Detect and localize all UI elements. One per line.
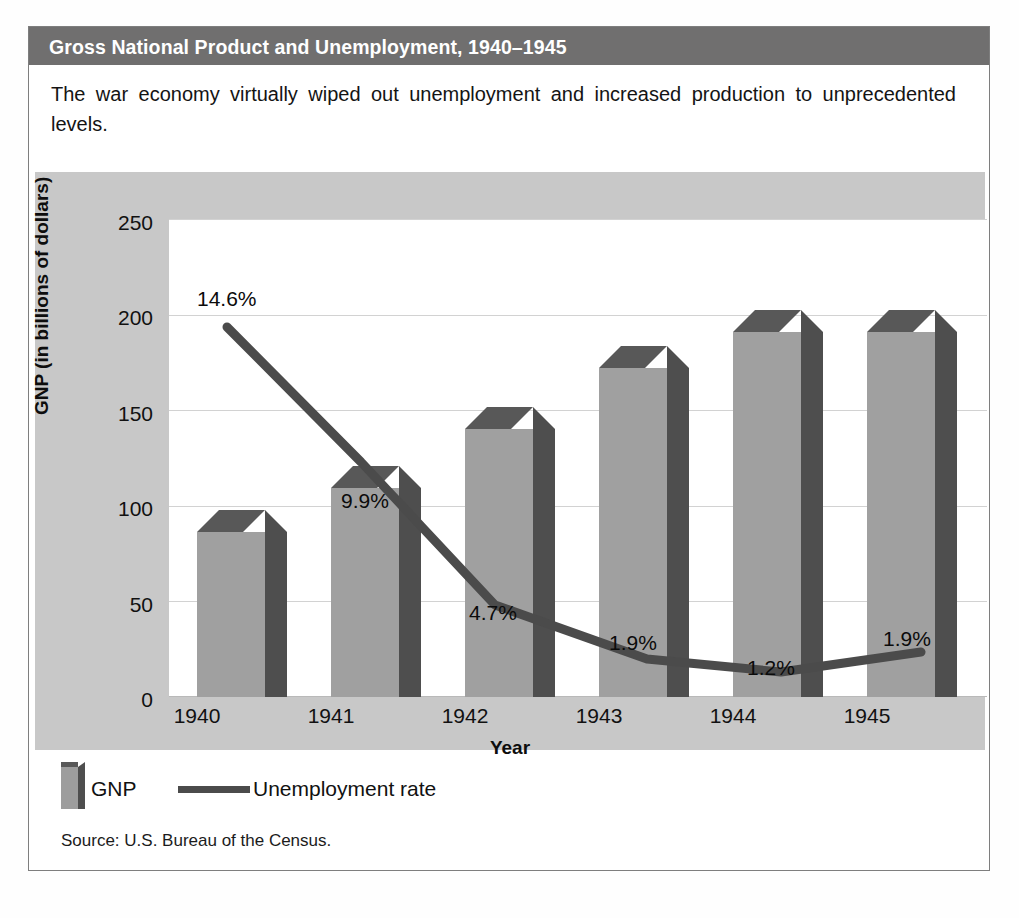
x-tick-1944: 1944 bbox=[678, 704, 788, 728]
source-note: Source: U.S. Bureau of the Census. bbox=[61, 831, 331, 851]
figure-title-bar: Gross National Product and Unemployment,… bbox=[29, 27, 989, 65]
y-tick-150: 150 bbox=[97, 403, 153, 424]
x-tick-1945: 1945 bbox=[812, 704, 922, 728]
x-tick-1943: 1943 bbox=[544, 704, 654, 728]
figure-title: Gross National Product and Unemployment,… bbox=[49, 36, 567, 59]
data-label-1943: 1.9% bbox=[609, 631, 657, 655]
legend-line-label: Unemployment rate bbox=[253, 777, 436, 801]
figure-page: Gross National Product and Unemployment,… bbox=[0, 0, 1019, 918]
figure-caption: The war economy virtually wiped out unem… bbox=[51, 79, 956, 139]
legend-swatch-side bbox=[78, 762, 85, 809]
legend-swatch-top bbox=[61, 762, 78, 767]
unemployment-polyline bbox=[227, 327, 921, 672]
legend-bar-label: GNP bbox=[91, 777, 137, 801]
x-tick-1941: 1941 bbox=[276, 704, 386, 728]
y-tick-250: 250 bbox=[97, 212, 153, 233]
plot-area: 14.6% 9.9% 4.7% 1.9% 1.2% 1.9% bbox=[169, 219, 987, 697]
data-label-1945: 1.9% bbox=[883, 627, 931, 651]
chart-panel: GNP (in billions of dollars) 250 200 150… bbox=[35, 172, 985, 750]
data-label-1942: 4.7% bbox=[469, 601, 517, 625]
y-axis-title: GNP (in billions of dollars) bbox=[31, 177, 53, 415]
data-label-1944: 1.2% bbox=[747, 656, 795, 680]
x-tick-1942: 1942 bbox=[410, 704, 520, 728]
unemployment-line-series bbox=[169, 219, 987, 697]
y-tick-100: 100 bbox=[97, 498, 153, 519]
y-tick-200: 200 bbox=[97, 307, 153, 328]
legend-area: GNP Unemployment rate Source: U.S. Burea… bbox=[35, 755, 985, 865]
x-tick-1940: 1940 bbox=[142, 704, 252, 728]
y-tick-50: 50 bbox=[97, 594, 153, 615]
legend-bar-swatch bbox=[61, 767, 78, 809]
data-label-1940: 14.6% bbox=[197, 287, 257, 311]
figure-container: Gross National Product and Unemployment,… bbox=[28, 26, 990, 871]
legend-line-swatch bbox=[178, 786, 250, 793]
data-label-1941: 9.9% bbox=[341, 489, 389, 513]
